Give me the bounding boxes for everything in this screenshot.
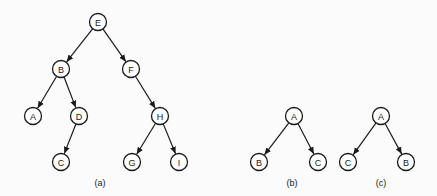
node-label: C [315,158,322,168]
node-d: D [71,108,88,125]
edge-d-to-c [64,124,76,154]
caption-c: (c) [376,178,387,188]
node-label: F [128,65,134,75]
node-label: E [95,18,101,28]
node-c: C [310,154,327,171]
tree-diagram-figure: EBFADHCGI(a) ABC(b) ACB(c) [0,0,437,196]
node-label: D [76,112,83,122]
node-c: C [53,154,70,171]
tree-diagram-canvas: EBFADHCGI(a) ABC(b) ACB(c) [0,0,437,196]
node-label: B [403,158,409,168]
node-c: C [340,154,357,171]
node-label: H [157,112,164,122]
caption-a: (a) [95,178,106,188]
node-label: G [128,158,135,168]
edge-b-to-a [38,76,57,108]
edge-b-to-d [64,77,76,108]
node-b: B [53,61,70,78]
caption-b: (b) [287,178,298,188]
node-label: C [345,158,352,168]
edge-h-to-g [137,123,156,154]
node-i: I [171,154,188,171]
edge-a-to-b [385,123,402,154]
edge-a-to-c [353,123,376,155]
tree-a: EBFADHCGI(a) [25,14,188,189]
node-label: B [256,158,262,168]
edge-e-to-f [103,29,126,62]
edge-f-to-h [135,76,155,108]
node-label: A [291,112,297,122]
node-a: A [373,108,390,125]
tree-c: ACB(c) [340,108,415,189]
edge-a-to-b [264,123,288,155]
node-a: A [25,108,42,125]
node-g: G [124,154,141,171]
edge-e-to-b [67,29,93,62]
edge-h-to-i [163,124,175,154]
node-label: C [58,158,65,168]
edge-a-to-c [298,124,314,154]
tree-b: ABC(b) [251,108,327,189]
node-b: B [398,154,415,171]
node-label: B [58,65,64,75]
node-a: A [286,108,303,125]
node-label: A [378,112,384,122]
node-label: A [30,112,36,122]
node-b: B [251,154,268,171]
node-f: F [123,61,140,78]
node-label: I [178,158,181,168]
node-e: E [90,14,107,31]
node-h: H [152,108,169,125]
